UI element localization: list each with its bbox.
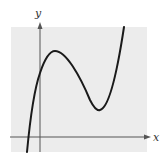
plot-panel	[11, 27, 147, 152]
y-axis-arrow-icon	[38, 22, 43, 29]
x-axis-arrow-icon	[144, 135, 151, 140]
y-axis-label: y	[34, 7, 42, 20]
cubic-function-graph: x y	[0, 0, 167, 164]
x-axis-label: x	[153, 131, 160, 144]
